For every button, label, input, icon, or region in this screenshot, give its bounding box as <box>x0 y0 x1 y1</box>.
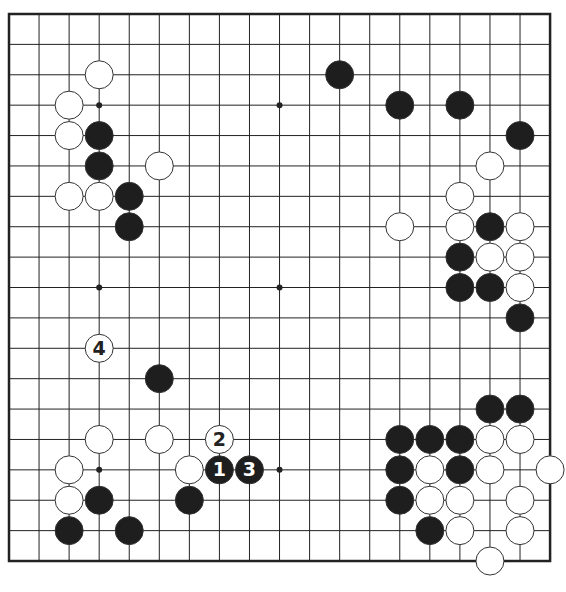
black-stone <box>85 486 113 514</box>
white-stone <box>506 213 534 241</box>
black-stone <box>175 486 203 514</box>
white-stone <box>506 486 534 514</box>
move-number-label: 3 <box>243 458 256 480</box>
white-stone <box>416 486 444 514</box>
black-stone <box>506 122 534 150</box>
white-stone <box>536 456 564 484</box>
white-stone <box>55 91 83 119</box>
white-stone <box>386 213 414 241</box>
black-stone <box>386 456 414 484</box>
black-stone <box>386 91 414 119</box>
black-stone <box>476 274 504 302</box>
white-stone <box>446 182 474 210</box>
white-stone <box>506 425 534 453</box>
star-point <box>277 102 283 108</box>
black-stone <box>476 395 504 423</box>
black-stone <box>446 91 474 119</box>
black-stone <box>506 395 534 423</box>
star-point <box>96 285 102 291</box>
white-stone <box>55 486 83 514</box>
black-stone <box>446 243 474 271</box>
star-point <box>96 102 102 108</box>
black-stone <box>55 517 83 545</box>
white-stone <box>416 456 444 484</box>
move-1-black-stone: 1 <box>205 456 233 484</box>
black-stone <box>416 425 444 453</box>
move-number-label: 1 <box>213 458 226 480</box>
black-stone <box>446 456 474 484</box>
white-stone <box>55 456 83 484</box>
black-stone <box>446 274 474 302</box>
black-stone <box>115 182 143 210</box>
star-point <box>277 467 283 473</box>
black-stone <box>416 517 444 545</box>
black-stone <box>386 425 414 453</box>
move-4-white-stone: 4 <box>85 334 113 362</box>
white-stone <box>476 425 504 453</box>
white-stone <box>506 517 534 545</box>
white-stone <box>85 425 113 453</box>
white-stone <box>175 456 203 484</box>
white-stone <box>145 425 173 453</box>
white-stone <box>446 517 474 545</box>
white-stone <box>476 456 504 484</box>
move-3-black-stone: 3 <box>235 456 263 484</box>
black-stone <box>476 213 504 241</box>
black-stone <box>506 304 534 332</box>
go-board: 4213 <box>0 0 566 592</box>
move-2-white-stone: 2 <box>205 425 233 453</box>
white-stone <box>446 486 474 514</box>
black-stone <box>386 486 414 514</box>
white-stone <box>476 547 504 575</box>
white-stone <box>85 61 113 89</box>
star-point <box>96 467 102 473</box>
white-stone <box>476 152 504 180</box>
black-stone <box>446 425 474 453</box>
black-stone <box>85 122 113 150</box>
star-point <box>277 285 283 291</box>
move-number-label: 4 <box>93 337 106 359</box>
white-stone <box>476 243 504 271</box>
black-stone <box>115 517 143 545</box>
white-stone <box>506 274 534 302</box>
white-stone <box>85 182 113 210</box>
white-stone <box>446 213 474 241</box>
move-number-label: 2 <box>213 428 226 450</box>
black-stone <box>145 365 173 393</box>
black-stone <box>326 61 354 89</box>
white-stone <box>55 122 83 150</box>
white-stone <box>506 243 534 271</box>
black-stone <box>115 213 143 241</box>
white-stone <box>55 182 83 210</box>
black-stone <box>85 152 113 180</box>
white-stone <box>145 152 173 180</box>
